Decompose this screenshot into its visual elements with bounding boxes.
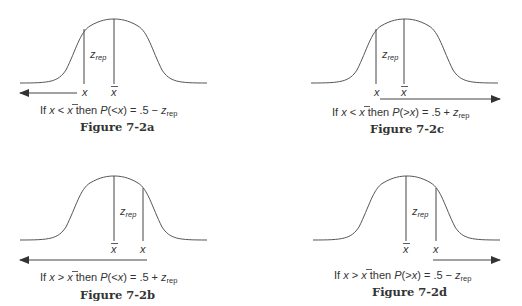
z-rep-label: zrep (119, 205, 136, 219)
x-label: x (81, 86, 88, 98)
x-label: x (373, 86, 380, 98)
normal-distribution-figures: zrep x x If x < x then P(<x) = .5 − zrep… (0, 0, 522, 306)
z-rep-label: zrep (89, 48, 106, 62)
caption: If x > x then P(>x) = .5 − zrep (334, 269, 471, 283)
caption: If x < x then P(<x) = .5 − zrep (40, 104, 177, 118)
z-rep-label: zrep (411, 205, 428, 219)
x-bar-label: x (402, 243, 409, 255)
caption: If x < x then P(>x) = .5 + zrep (332, 106, 469, 120)
z-rep-label: zrep (381, 48, 398, 62)
figure-title: Figure 7-2a (80, 120, 155, 134)
x-bar-label: x (400, 86, 407, 98)
figure-7-2c: zrep x x If x < x then P(>x) = .5 + zrep… (311, 19, 500, 136)
figure-title: Figure 7-2b (80, 288, 155, 302)
figure-7-2a: zrep x x If x < x then P(<x) = .5 − zrep… (20, 19, 207, 134)
x-label: x (432, 243, 439, 255)
x-bar-label: x (110, 243, 117, 255)
figure-7-2d: zrep x x If x > x then P(>x) = .5 − zrep… (313, 176, 500, 299)
caption: If x > x then P(<x) = .5 + zrep (40, 271, 177, 285)
x-bar-label: x (110, 86, 117, 98)
x-label: x (139, 243, 146, 255)
figure-title: Figure 7-2d (372, 285, 447, 299)
figure-title: Figure 7-2c (370, 122, 444, 136)
figure-7-2b: zrep x x If x > x then P(<x) = .5 + zrep… (20, 176, 207, 302)
